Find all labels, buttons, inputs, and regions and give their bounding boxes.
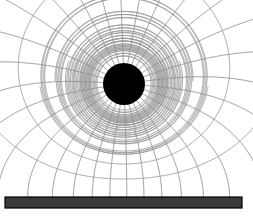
charged-sphere-conductor (103, 63, 145, 105)
field-diagram-canvas (0, 0, 253, 216)
field-diagram-figure (0, 0, 253, 216)
grounded-plane-bar (5, 197, 242, 208)
